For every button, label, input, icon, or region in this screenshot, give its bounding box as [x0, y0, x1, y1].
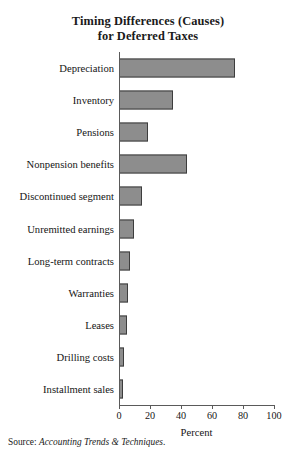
category-label: Long-term contracts: [28, 255, 114, 266]
category-label: Nonpension benefits: [27, 159, 114, 170]
plot-area: Depreciation Inventory Pensions Nonpensi…: [0, 52, 296, 407]
bar-row: Pensions: [0, 116, 296, 148]
x-tick-mark: [181, 405, 182, 409]
category-label: Discontinued segment: [20, 191, 114, 202]
category-label: Inventory: [73, 95, 114, 106]
bar-row: Installment sales: [0, 373, 296, 405]
x-tick-label: 100: [266, 410, 281, 421]
category-label: Unremitted earnings: [27, 223, 114, 234]
bar-track: [119, 155, 187, 174]
bar-row: Long-term contracts: [0, 245, 296, 277]
x-tick-mark: [274, 405, 275, 409]
x-tick-mark: [243, 405, 244, 409]
source-suffix: .: [163, 437, 165, 447]
x-tick-label: 80: [238, 410, 248, 421]
bar-row: Warranties: [0, 277, 296, 309]
bar-track: [119, 91, 173, 110]
x-tick-label: 0: [116, 410, 121, 421]
category-label: Installment sales: [43, 383, 114, 394]
source-publication: Accounting Trends & Techniques: [39, 437, 163, 447]
bar-track: [119, 219, 134, 238]
y-axis-line: [119, 52, 120, 405]
bar-row: Inventory: [0, 84, 296, 116]
x-tick-mark: [119, 405, 120, 409]
x-tick-label: 20: [145, 410, 155, 421]
bar-track: [119, 315, 127, 334]
bar-row: Depreciation: [0, 52, 296, 84]
category-label: Depreciation: [59, 63, 114, 74]
source-note: Source: Accounting Trends & Techniques.: [8, 437, 165, 447]
bar-leases: [119, 315, 127, 334]
chart-figure: Timing Differences (Causes) for Deferred…: [0, 0, 296, 455]
bar-nonpension-benefits: [119, 155, 187, 174]
bar-track: [119, 59, 235, 78]
x-axis-ticks: 0 20 40 60 80 100: [0, 405, 296, 427]
bar-unremitted-earnings: [119, 219, 134, 238]
x-tick-label: 60: [207, 410, 217, 421]
bar-track: [119, 283, 128, 302]
chart-title: Timing Differences (Causes) for Deferred…: [0, 14, 296, 43]
bar-long-term-contracts: [119, 251, 130, 270]
chart-title-line-2: for Deferred Taxes: [0, 29, 296, 44]
category-label: Warranties: [68, 287, 114, 298]
x-tick-mark: [212, 405, 213, 409]
bar-row: Unremitted earnings: [0, 212, 296, 244]
bar-inventory: [119, 91, 173, 110]
category-label: Pensions: [76, 127, 114, 138]
bar-discontinued-segment: [119, 187, 142, 206]
bar-rows: Depreciation Inventory Pensions Nonpensi…: [0, 52, 296, 405]
bar-row: Nonpension benefits: [0, 148, 296, 180]
bar-row: Drilling costs: [0, 341, 296, 373]
source-prefix: Source:: [8, 437, 39, 447]
bar-track: [119, 123, 148, 142]
x-tick-mark: [150, 405, 151, 409]
chart-title-line-1: Timing Differences (Causes): [0, 14, 296, 29]
bar-row: Leases: [0, 309, 296, 341]
bar-row: Discontinued segment: [0, 180, 296, 212]
bar-pensions: [119, 123, 148, 142]
bar-depreciation: [119, 59, 235, 78]
bar-track: [119, 187, 142, 206]
bar-track: [119, 251, 130, 270]
category-label: Drilling costs: [57, 351, 114, 362]
category-label: Leases: [85, 319, 114, 330]
bar-warranties: [119, 283, 128, 302]
x-tick-label: 40: [176, 410, 186, 421]
